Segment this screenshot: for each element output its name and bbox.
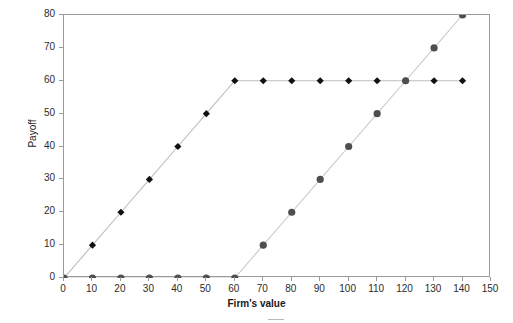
- y-tick-mark: [59, 211, 63, 212]
- y-tick-label: 30: [21, 172, 55, 183]
- x-tick-mark: [319, 277, 320, 281]
- data-point-marker: [260, 77, 267, 84]
- y-axis-title: Payoff: [27, 94, 38, 174]
- y-tick-mark: [59, 14, 63, 15]
- y-tick-mark: [59, 113, 63, 114]
- plot-area: [63, 14, 490, 277]
- data-point-marker: [146, 274, 153, 278]
- data-point-marker: [402, 77, 409, 84]
- y-tick-label: 70: [21, 41, 55, 52]
- x-tick-label: 130: [418, 283, 448, 294]
- data-point-marker: [260, 242, 267, 249]
- y-tick-label: 10: [21, 238, 55, 249]
- data-point-marker: [374, 77, 381, 84]
- x-tick-mark: [462, 277, 463, 281]
- x-tick-label: 20: [105, 283, 135, 294]
- data-point-marker: [288, 209, 295, 216]
- x-tick-mark: [348, 277, 349, 281]
- payoff-chart: 01020304050607080 0102030405060708090100…: [0, 0, 513, 323]
- x-tick-label: 30: [133, 283, 163, 294]
- x-tick-label: 60: [219, 283, 249, 294]
- y-tick-label: 20: [21, 205, 55, 216]
- x-tick-mark: [376, 277, 377, 281]
- x-tick-label: 40: [162, 283, 192, 294]
- y-tick-mark: [59, 146, 63, 147]
- x-tick-label: 0: [48, 283, 78, 294]
- x-tick-label: 10: [76, 283, 106, 294]
- y-tick-mark: [59, 178, 63, 179]
- x-tick-mark: [490, 277, 491, 281]
- x-tick-mark: [177, 277, 178, 281]
- x-tick-mark: [291, 277, 292, 281]
- x-axis-title: Firm's value: [0, 298, 513, 309]
- x-tick-mark: [433, 277, 434, 281]
- y-tick-mark: [59, 244, 63, 245]
- x-tick-label: 90: [304, 283, 334, 294]
- x-tick-label: 70: [247, 283, 277, 294]
- y-tick-mark: [59, 47, 63, 48]
- x-tick-mark: [205, 277, 206, 281]
- data-point-marker: [203, 274, 210, 278]
- data-point-marker: [89, 274, 96, 278]
- data-point-marker: [374, 110, 381, 117]
- data-point-marker: [117, 274, 124, 278]
- x-tick-label: 50: [190, 283, 220, 294]
- x-tick-mark: [63, 277, 64, 281]
- data-point-marker: [288, 77, 295, 84]
- x-tick-label: 150: [475, 283, 505, 294]
- y-tick-mark: [59, 80, 63, 81]
- data-point-marker: [430, 44, 437, 51]
- data-point-marker: [345, 143, 352, 150]
- plot-svg: [64, 15, 491, 278]
- data-point-marker: [459, 77, 466, 84]
- data-point-marker: [174, 274, 181, 278]
- data-point-marker: [345, 77, 352, 84]
- x-tick-mark: [262, 277, 263, 281]
- x-tick-label: 80: [276, 283, 306, 294]
- x-tick-label: 140: [447, 283, 477, 294]
- x-tick-mark: [234, 277, 235, 281]
- x-tick-mark: [91, 277, 92, 281]
- x-tick-mark: [148, 277, 149, 281]
- data-point-marker: [317, 77, 324, 84]
- data-point-marker: [317, 176, 324, 183]
- series-line: [64, 15, 463, 278]
- y-tick-label: 60: [21, 74, 55, 85]
- x-tick-label: 110: [361, 283, 391, 294]
- x-tick-label: 100: [333, 283, 363, 294]
- x-tick-mark: [405, 277, 406, 281]
- x-tick-label: 120: [390, 283, 420, 294]
- legend-line-fragment: [268, 319, 284, 320]
- y-tick-label: 80: [21, 8, 55, 19]
- y-tick-label: 0: [21, 271, 55, 282]
- data-point-marker: [430, 77, 437, 84]
- x-tick-mark: [120, 277, 121, 281]
